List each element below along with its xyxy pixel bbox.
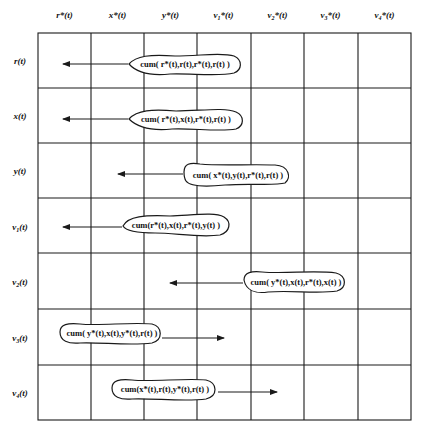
formula-label: cum( r*(t),r(t),r*(t),r(t) ) xyxy=(132,59,238,69)
formula-label: cum(x*(t),r(t),y*(t),r(t) ) xyxy=(112,384,218,394)
formula-label: cum( x*(t),y(t),r*(t),r(t) ) xyxy=(186,170,290,180)
formula-label: cum( y*(t),x(t),r*(t),x(t) ) xyxy=(246,277,346,287)
formula-label: cum(r*(t),x(t),r*(t),y(t) ) xyxy=(124,220,228,230)
formula-label: cum( r*(t),x(t),r*(t),r(t) ) xyxy=(132,114,240,124)
formula-label: cum( y*(t),x(t),y*(t),r(t) ) xyxy=(60,328,164,338)
